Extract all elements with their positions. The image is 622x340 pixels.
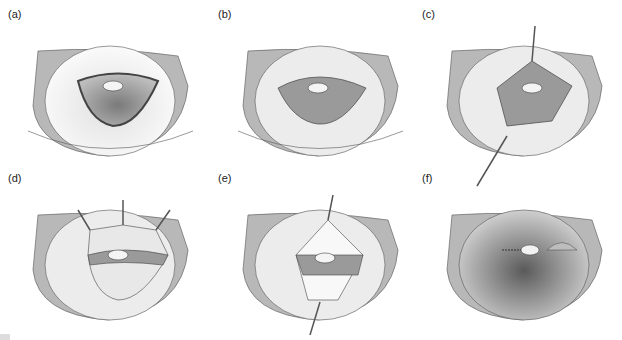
eye-illustration-f bbox=[422, 190, 622, 335]
eye-illustration-b bbox=[218, 26, 418, 171]
panel-e: (e) bbox=[218, 172, 418, 337]
eye-illustration-a bbox=[8, 26, 208, 171]
caption-fragment bbox=[0, 334, 10, 340]
panel-c: (c) bbox=[422, 8, 622, 173]
panel-label: (b) bbox=[218, 8, 231, 20]
panel-label: (d) bbox=[8, 172, 21, 184]
eye-illustration-d bbox=[8, 190, 208, 335]
panel-f: (f) bbox=[422, 172, 622, 337]
panel-d: (d) bbox=[8, 172, 208, 337]
panel-label: (c) bbox=[422, 8, 435, 20]
panel-label: (a) bbox=[8, 8, 21, 20]
panel-label: (e) bbox=[218, 172, 231, 184]
panel-a: (a) bbox=[8, 8, 208, 173]
panel-b: (b) bbox=[218, 8, 418, 173]
eye-illustration-e bbox=[218, 190, 418, 335]
eye-illustration-c bbox=[422, 26, 622, 191]
scar-patch bbox=[521, 245, 539, 255]
panel-label: (f) bbox=[422, 172, 432, 184]
